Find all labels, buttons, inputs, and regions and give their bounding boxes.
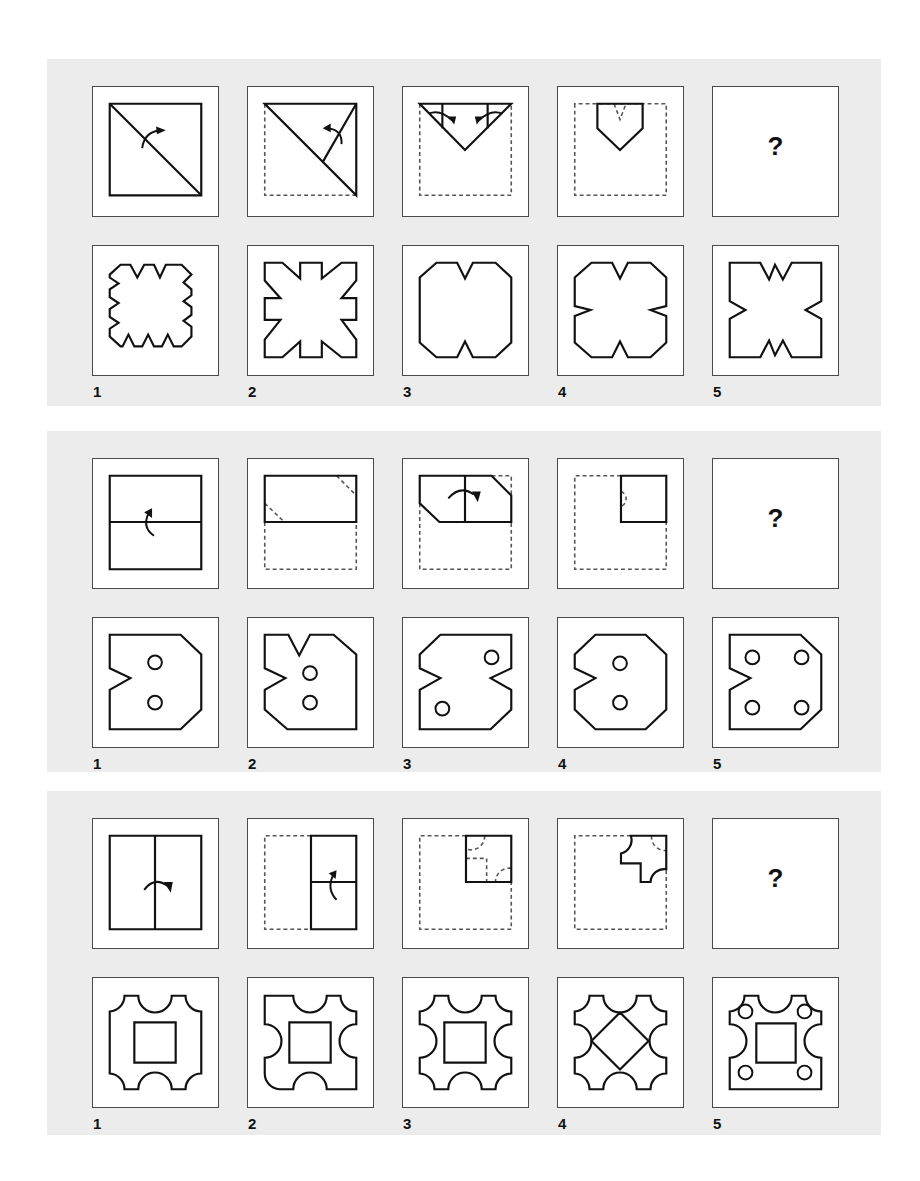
option-number-label: 3 <box>403 755 411 772</box>
option-number-label: 2 <box>248 1115 256 1132</box>
option-number-label: 4 <box>558 383 566 400</box>
answer-option-1[interactable] <box>92 977 219 1108</box>
option-number-label: 4 <box>558 1115 566 1132</box>
cut-shape-icon <box>713 978 838 1107</box>
option-number-label: 4 <box>558 755 566 772</box>
fold-diagram-icon <box>248 459 373 588</box>
cut-shape-icon <box>93 246 218 375</box>
fold-diagram-icon <box>403 459 528 588</box>
puzzle-panel-3: ?12345 <box>47 791 881 1135</box>
cut-shape-icon <box>93 978 218 1107</box>
option-number-label: 2 <box>248 383 256 400</box>
fold-step-3 <box>402 458 529 589</box>
answer-placeholder-box: ? <box>712 818 839 949</box>
cut-shape-icon <box>248 978 373 1107</box>
fold-step-4 <box>557 818 684 949</box>
answer-option-5[interactable] <box>712 617 839 748</box>
fold-diagram-icon <box>403 819 528 948</box>
fold-diagram-icon <box>403 87 528 216</box>
fold-diagram-icon <box>93 459 218 588</box>
option-number-label: 5 <box>713 1115 721 1132</box>
fold-diagram-icon <box>248 819 373 948</box>
fold-step-4 <box>557 86 684 217</box>
fold-diagram-icon <box>248 87 373 216</box>
fold-step-3 <box>402 818 529 949</box>
puzzle-panel-1: ?12345 <box>47 59 881 406</box>
answer-option-3[interactable] <box>402 617 529 748</box>
answer-option-1[interactable] <box>92 617 219 748</box>
cut-shape-icon <box>248 618 373 747</box>
cut-shape-icon <box>558 246 683 375</box>
cut-shape-icon <box>558 978 683 1107</box>
fold-diagram-icon <box>93 819 218 948</box>
fold-diagram-icon <box>558 819 683 948</box>
fold-diagram-icon <box>558 87 683 216</box>
fold-step-2 <box>247 458 374 589</box>
fold-step-1 <box>92 458 219 589</box>
answer-option-2[interactable] <box>247 617 374 748</box>
cut-shape-icon <box>713 618 838 747</box>
fold-step-3 <box>402 86 529 217</box>
fold-step-2 <box>247 86 374 217</box>
fold-diagram-icon <box>93 87 218 216</box>
fold-step-4 <box>557 458 684 589</box>
option-number-label: 2 <box>248 755 256 772</box>
question-mark: ? <box>713 131 838 162</box>
answer-option-1[interactable] <box>92 245 219 376</box>
cut-shape-icon <box>558 618 683 747</box>
option-number-label: 1 <box>93 755 101 772</box>
puzzle-panel-2: ?12345 <box>47 431 881 772</box>
answer-option-5[interactable] <box>712 977 839 1108</box>
cut-shape-icon <box>93 618 218 747</box>
cut-shape-icon <box>713 246 838 375</box>
option-number-label: 3 <box>403 1115 411 1132</box>
question-mark: ? <box>713 503 838 534</box>
option-number-label: 1 <box>93 1115 101 1132</box>
answer-option-5[interactable] <box>712 245 839 376</box>
answer-option-3[interactable] <box>402 245 529 376</box>
fold-diagram-icon <box>558 459 683 588</box>
fold-step-1 <box>92 818 219 949</box>
fold-step-1 <box>92 86 219 217</box>
option-number-label: 3 <box>403 383 411 400</box>
cut-shape-icon <box>403 978 528 1107</box>
answer-placeholder-box: ? <box>712 458 839 589</box>
answer-option-2[interactable] <box>247 245 374 376</box>
answer-option-4[interactable] <box>557 617 684 748</box>
cut-shape-icon <box>403 618 528 747</box>
fold-step-2 <box>247 818 374 949</box>
answer-option-4[interactable] <box>557 245 684 376</box>
answer-option-4[interactable] <box>557 977 684 1108</box>
question-mark: ? <box>713 863 838 894</box>
cut-shape-icon <box>403 246 528 375</box>
option-number-label: 1 <box>93 383 101 400</box>
answer-option-3[interactable] <box>402 977 529 1108</box>
answer-option-2[interactable] <box>247 977 374 1108</box>
option-number-label: 5 <box>713 755 721 772</box>
option-number-label: 5 <box>713 383 721 400</box>
answer-placeholder-box: ? <box>712 86 839 217</box>
cut-shape-icon <box>248 246 373 375</box>
